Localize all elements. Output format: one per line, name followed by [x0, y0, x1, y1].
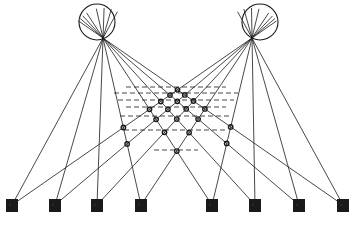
target-glyph: · — [94, 201, 96, 209]
target-square: · — [91, 199, 103, 212]
target-glyph: · — [209, 201, 211, 209]
target-square: · — [293, 199, 305, 212]
target-square: · — [135, 199, 147, 212]
target-square: · — [249, 199, 261, 212]
target-glyph: · — [9, 201, 11, 209]
diagram-canvas: ········ — [0, 0, 354, 225]
target-glyph: · — [252, 201, 254, 209]
target-square: · — [49, 199, 61, 212]
line-of-sight — [55, 19, 275, 205]
target-square: · — [206, 199, 218, 212]
line-of-sight — [12, 21, 277, 205]
target-glyph: · — [52, 201, 54, 209]
line-of-sight — [87, 13, 212, 205]
line-of-sight — [141, 13, 269, 205]
line-of-sight — [12, 12, 117, 205]
target-glyph: · — [296, 201, 298, 209]
line-of-sight — [83, 16, 255, 205]
target-glyph: · — [138, 201, 140, 209]
line-of-sight — [80, 19, 299, 206]
lattice-drawing — [0, 0, 354, 225]
target-glyph: · — [340, 201, 342, 209]
target-square: · — [337, 199, 349, 212]
line-of-sight — [78, 21, 343, 205]
target-square: · — [6, 199, 18, 212]
